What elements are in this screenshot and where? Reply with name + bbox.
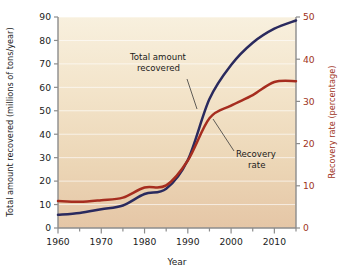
right-axis-tick-labels: 01020304050: [303, 11, 315, 233]
annotation-recovery-rate-line1: Recovery: [236, 149, 276, 159]
y2-axis-tick-label: 10: [303, 180, 315, 191]
chart-figure: 0102030405060708090 01020304050 19601970…: [0, 0, 345, 275]
x-axis-title: Year: [166, 257, 186, 267]
y-axis-tick-label: 40: [39, 129, 51, 140]
y-axis-tick-label: 30: [39, 152, 51, 163]
y-axis-tick-label: 60: [39, 82, 51, 93]
y-axis-tick-label: 80: [39, 35, 51, 46]
y2-axis-tick-label: 50: [303, 11, 315, 22]
y-axis-tick-label: 20: [39, 175, 51, 186]
y2-axis-title: Recovery rate (percentage): [327, 66, 337, 179]
y2-axis-tick-label: 30: [303, 96, 315, 107]
line-chart: 0102030405060708090 01020304050 19601970…: [0, 0, 345, 275]
x-axis-ticks: [58, 228, 296, 234]
y-axis-title: Total amount recovered (millions of tons…: [5, 27, 15, 217]
annotation-total-amount-line1: Total amount: [129, 52, 187, 62]
x-axis-tick-label: 1960: [46, 236, 70, 247]
x-axis-tick-label: 2000: [219, 236, 243, 247]
left-axis-tick-labels: 0102030405060708090: [39, 11, 51, 233]
annotation-total-amount-line2: recovered: [137, 63, 180, 73]
x-axis-tick-labels: 196019701980199020002010: [46, 236, 286, 247]
x-axis-tick-label: 1990: [176, 236, 200, 247]
y-axis-tick-label: 10: [39, 199, 51, 210]
annotation-recovery-rate-line2: rate: [248, 160, 265, 170]
x-axis-tick-label: 1970: [90, 236, 114, 247]
y-axis-tick-label: 90: [39, 11, 51, 22]
y2-axis-tick-label: 40: [303, 54, 315, 65]
y-axis-tick-label: 0: [45, 222, 51, 233]
x-axis-tick-label: 2010: [263, 236, 287, 247]
y-axis-tick-label: 50: [39, 105, 51, 116]
plot-area-background: [58, 17, 296, 228]
y-axis-tick-label: 70: [39, 58, 51, 69]
x-axis-tick-label: 1980: [133, 236, 157, 247]
y2-axis-tick-label: 0: [303, 222, 309, 233]
y2-axis-tick-label: 20: [303, 138, 315, 149]
